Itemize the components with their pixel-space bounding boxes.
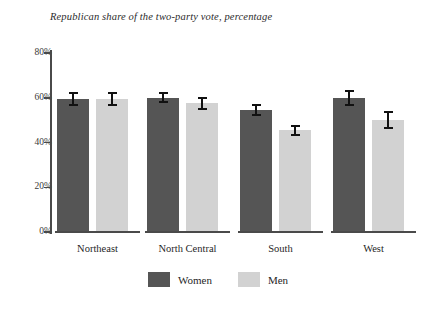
y-axis-tick [44,187,51,189]
error-bar [252,104,261,115]
error-bar [159,92,168,103]
chart-title: Republican share of the two-party vote, … [50,11,272,22]
error-bar [198,97,207,110]
chart-legend: Women Men [0,272,436,287]
y-axis-tick [44,97,51,99]
bar-group [57,50,128,232]
error-bar-cap-top [69,92,78,94]
error-bar-cap-bottom [69,104,78,106]
y-axis-tick [44,142,51,144]
x-axis-segment [238,231,323,233]
legend-swatch-women [148,272,170,287]
x-axis-label: West [331,243,416,254]
error-bar-cap-top [384,111,393,113]
bar-women-north-central [147,98,179,232]
error-bar [69,92,78,105]
error-bar-cap-top [291,125,300,127]
legend-item-men: Men [238,272,288,287]
x-axis-label: South [238,243,323,254]
error-bar-cap-bottom [108,104,117,106]
error-bar-cap-top [252,104,261,106]
error-bar-cap-bottom [198,108,207,110]
y-axis-tick [44,52,51,54]
legend-label-men: Men [268,274,288,286]
error-bar-cap-bottom [252,114,261,116]
error-bar [384,111,393,129]
error-bar [291,125,300,136]
x-axis-segment [145,231,230,233]
bar-group [240,50,311,232]
bar-group [147,50,218,232]
x-axis-segment [55,231,140,233]
x-axis-label: Northeast [55,243,140,254]
bar-group [333,50,404,232]
bar-women-south [240,110,272,232]
bar-women-northeast [57,99,89,232]
bar-men-west [372,120,404,232]
error-bar [108,92,117,105]
error-bar-cap-top [108,92,117,94]
error-bar-cap-top [159,92,168,94]
bar-women-west [333,98,365,232]
error-bar-cap-bottom [384,127,393,129]
error-bar-cap-bottom [291,134,300,136]
error-bar [345,90,354,106]
bar-men-north-central [186,103,218,232]
error-bar-cap-bottom [345,104,354,106]
legend-item-women: Women [148,272,212,287]
error-bar-cap-top [345,90,354,92]
error-bar-cap-bottom [159,101,168,103]
x-axis-segment [331,231,416,233]
y-axis-tick [44,231,51,233]
y-axis-labels: 0%20%40%60%80% [0,0,52,312]
bar-men-south [279,130,311,232]
legend-label-women: Women [178,274,212,286]
x-axis-label: North Central [145,243,230,254]
bar-men-northeast [96,99,128,232]
legend-swatch-men [238,272,260,287]
error-bar-cap-top [198,97,207,99]
chart-container: Republican share of the two-party vote, … [0,0,436,312]
